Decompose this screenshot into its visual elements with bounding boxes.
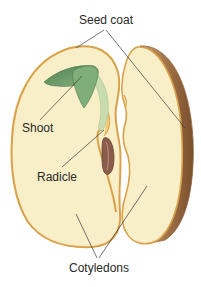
radicle-label: Radicle (37, 170, 77, 184)
seed-illustration (0, 0, 201, 287)
seed-coat-label: Seed coat (79, 13, 133, 27)
seed-diagram: Seed coat Shoot Radicle Cotyledons (0, 0, 201, 287)
right-cotyledon (122, 46, 193, 244)
shoot-label: Shoot (22, 121, 53, 135)
cotyledons-label: Cotyledons (69, 261, 129, 275)
seed-coat-leader-left (76, 30, 104, 48)
